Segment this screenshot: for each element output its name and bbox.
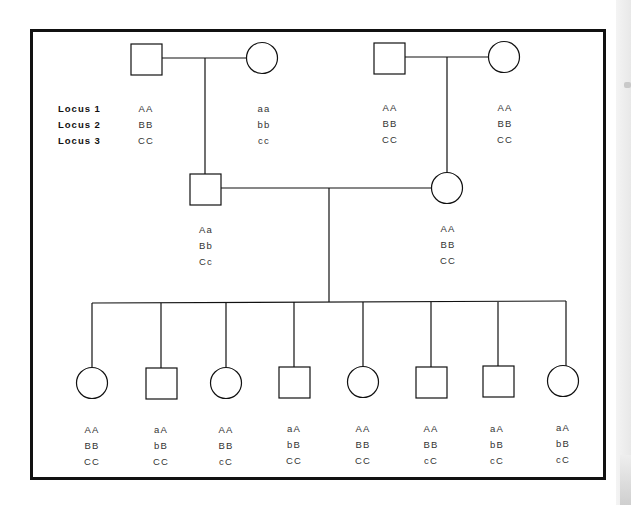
genotype-III4: aA bB CC <box>274 421 314 469</box>
genotype-III6: AA BB cC <box>411 421 451 469</box>
pedigree-diagram: Locus 1 Locus 2 Locus 3 AA BB CC aa bb c… <box>0 0 631 505</box>
female-symbol-I4 <box>489 42 520 73</box>
female-symbol-III8 <box>548 366 579 397</box>
genotype-III1: AA BB CC <box>72 422 112 470</box>
locus-label-2: Locus 2 <box>58 117 101 133</box>
female-symbol-III1 <box>77 368 108 399</box>
male-symbol-III2 <box>146 368 177 399</box>
male-symbol-I3 <box>374 43 405 74</box>
genotype-III7: aA bB cC <box>477 421 517 469</box>
genotype-III8: aA bB cC <box>543 420 583 468</box>
genotype-I2: aa bb cc <box>244 101 284 149</box>
genotype-I3: AA BB CC <box>370 100 410 148</box>
male-symbol-III4 <box>279 367 310 398</box>
genotype-II1: Aa Bb Cc <box>186 222 226 270</box>
female-symbol-II2 <box>432 173 463 204</box>
male-symbol-III6 <box>416 367 447 398</box>
female-symbol-I2 <box>247 43 278 74</box>
male-symbol-II1 <box>190 174 221 205</box>
genotype-III2: aA bB CC <box>141 422 181 470</box>
genotype-III5: AA BB CC <box>343 421 383 469</box>
genotype-I1: AA BB CC <box>126 101 166 149</box>
genotype-I4: AA BB CC <box>485 100 525 148</box>
male-symbol-III7 <box>483 366 514 397</box>
locus-label-1: Locus 1 <box>58 101 101 117</box>
genotype-III3: AA BB cC <box>206 422 246 470</box>
female-symbol-III3 <box>211 368 242 399</box>
male-symbol-I1 <box>131 44 162 75</box>
female-symbol-III5 <box>348 367 379 398</box>
genotype-II2: AA BB CC <box>428 221 468 269</box>
locus-label-3: Locus 3 <box>58 133 101 149</box>
